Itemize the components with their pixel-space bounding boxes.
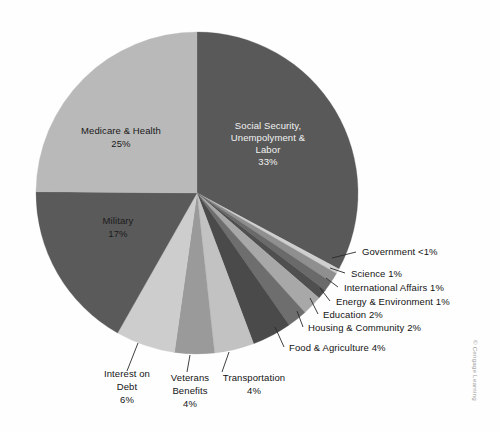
military-label-value: 17% — [108, 228, 128, 239]
interest-label-value: 6% — [120, 394, 134, 405]
medicare-label-line1: Medicare & Health — [81, 125, 161, 136]
pie-chart-svg: Social Security, Unempolyment & Labor 33… — [0, 0, 501, 432]
medicare-label-value: 25% — [111, 138, 131, 149]
leader-line-veterans — [187, 355, 190, 372]
transportation-label-value: 4% — [247, 385, 261, 396]
social-security-label-line2: Unempolyment & — [231, 132, 306, 143]
veterans-label-value: 4% — [183, 398, 197, 409]
bottom-label-transportation: Transportation 4% — [223, 372, 285, 396]
bottom-label-veterans: Veterans Benefits 4% — [171, 372, 209, 409]
government-callout-label: Government <1% — [362, 246, 438, 257]
leader-line-transportation — [222, 352, 229, 372]
pie-slice-medicare-health — [36, 32, 197, 193]
education-callout-label: Education 2% — [323, 309, 383, 320]
social-security-label-line3: Labor — [256, 144, 281, 155]
interest-label-line2: Debt — [117, 381, 138, 392]
bottom-label-interest: Interest on Debt 6% — [104, 368, 150, 405]
food-agriculture-callout-label: Food & Agriculture 4% — [289, 342, 386, 353]
pie-slice-group — [36, 32, 358, 354]
veterans-label-line2: Benefits — [172, 385, 207, 396]
copyright-credit: © Cengage Learning — [472, 340, 479, 401]
leader-line-interest — [127, 343, 138, 371]
transportation-label-line1: Transportation — [223, 372, 285, 383]
housing-community-callout-label: Housing & Community 2% — [308, 322, 422, 333]
military-label-line1: Military — [103, 215, 134, 226]
social-security-label-value: 33% — [258, 156, 278, 167]
international-affairs-callout-label: International Affairs 1% — [344, 282, 444, 293]
energy-environment-callout-label: Energy & Environment 1% — [336, 296, 450, 307]
science-callout-label: Science 1% — [351, 268, 403, 279]
pie-chart-figure: Social Security, Unempolyment & Labor 33… — [0, 0, 501, 432]
social-security-label-line1: Social Security, — [235, 120, 301, 131]
interest-label-line1: Interest on — [104, 368, 150, 379]
veterans-label-line1: Veterans — [171, 372, 209, 383]
